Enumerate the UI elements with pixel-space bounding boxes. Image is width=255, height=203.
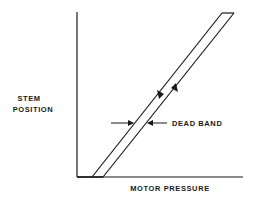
- x-axis-label: MOTOR PRESSURE: [130, 184, 210, 193]
- band-left-line: [92, 13, 222, 177]
- band-right-line: [103, 13, 234, 177]
- dead-band-label: DEAD BAND: [172, 119, 222, 128]
- dead-band-diagram: DEAD BAND STEM POSITION MOTOR PRESSURE: [0, 0, 255, 203]
- y-axis-label-line2: POSITION: [13, 105, 54, 114]
- y-axis-label-line1: STEM: [17, 94, 40, 103]
